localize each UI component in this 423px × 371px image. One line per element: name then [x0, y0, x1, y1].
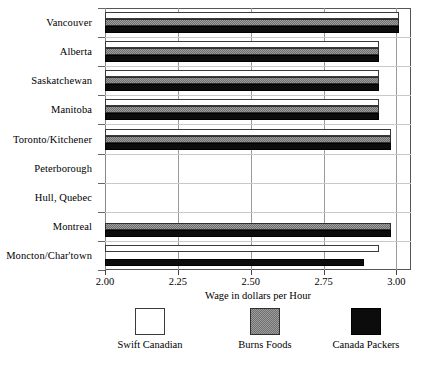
value-axis-tick-label: 3.00 — [373, 276, 419, 288]
category-axis-tick — [98, 241, 105, 242]
bar-swift-canadian — [105, 129, 391, 136]
category-label: Montreal — [0, 221, 92, 232]
category-band-separator — [105, 95, 411, 96]
bar-canada-packers — [105, 26, 399, 33]
white-square-swatch — [135, 308, 165, 335]
category-axis-tick — [98, 270, 105, 271]
value-axis-tick — [178, 270, 179, 275]
category-axis-tick — [98, 154, 105, 155]
value-axis-tick — [251, 270, 252, 275]
legend-entry[interactable]: Burns Foods — [213, 308, 317, 351]
category-axis-tick — [98, 124, 105, 125]
category-label: Vancouver — [0, 17, 92, 28]
bar-burns-foods — [105, 77, 379, 84]
category-label: Saskatchewan — [0, 75, 92, 86]
category-label: Manitoba — [0, 104, 92, 115]
gridline — [396, 8, 397, 270]
value-axis-tick — [105, 270, 106, 275]
value-axis-tick-label: 2.50 — [228, 276, 274, 288]
bar-canada-packers — [105, 55, 379, 62]
bar-burns-foods — [105, 106, 379, 113]
value-axis-tick — [396, 270, 397, 275]
category-axis-tick — [98, 183, 105, 184]
bar-swift-canadian — [105, 12, 399, 19]
bar-canada-packers — [105, 84, 379, 91]
value-axis-tick-labels: 2.002.252.502.753.00 — [0, 276, 423, 290]
value-axis-tick — [324, 270, 325, 275]
category-band-separator — [105, 124, 411, 125]
category-axis-tick — [98, 95, 105, 96]
category-label: Moncton/Char'town — [0, 250, 92, 261]
category-axis-tick — [98, 37, 105, 38]
bar-burns-foods — [105, 19, 399, 26]
value-axis-tick-label: 2.75 — [301, 276, 347, 288]
bar-burns-foods — [105, 136, 391, 143]
category-axis-tick — [98, 212, 105, 213]
bar-swift-canadian — [105, 41, 379, 48]
bar-canada-packers — [105, 230, 391, 237]
legend-entry[interactable]: Swift Canadian — [98, 308, 202, 351]
category-band-separator — [105, 66, 411, 67]
category-band-separator — [105, 154, 411, 155]
category-band-separator — [105, 37, 411, 38]
bar-canada-packers — [105, 113, 379, 120]
legend-label: Canada Packers — [314, 339, 418, 351]
category-axis: VancouverAlbertaSaskatchewanManitobaToro… — [0, 8, 98, 270]
value-axis-tick-label: 2.00 — [82, 276, 128, 288]
category-label: Hull, Quebec — [0, 192, 92, 203]
value-axis-title: Wage in dollars per Hour — [105, 289, 411, 302]
bar-swift-canadian — [105, 70, 379, 77]
black-square-swatch — [351, 308, 381, 335]
legend-entry[interactable]: Canada Packers — [314, 308, 418, 351]
bar-burns-foods — [105, 223, 391, 230]
category-band-separator — [105, 183, 411, 184]
category-axis-tick — [98, 66, 105, 67]
bar-canada-packers — [105, 143, 391, 150]
gray-dither-square-swatch — [250, 308, 280, 335]
chart-legend: Swift CanadianBurns FoodsCanada Packers — [98, 308, 418, 368]
category-band-separator — [105, 241, 411, 242]
legend-label: Burns Foods — [213, 339, 317, 351]
category-label: Peterborough — [0, 163, 92, 174]
bar-swift-canadian — [105, 99, 379, 106]
value-axis-tick-label: 2.25 — [155, 276, 201, 288]
legend-label: Swift Canadian — [98, 339, 202, 351]
category-axis-tick — [98, 8, 105, 9]
category-band-separator — [105, 212, 411, 213]
category-label: Alberta — [0, 46, 92, 57]
plot-area — [105, 8, 411, 270]
bar-burns-foods — [105, 48, 379, 55]
bar-canada-packers — [105, 259, 364, 266]
horizontal-bar-chart: VancouverAlbertaSaskatchewanManitobaToro… — [0, 0, 423, 371]
bar-swift-canadian — [105, 245, 379, 252]
category-label: Toronto/Kitchener — [0, 134, 92, 145]
